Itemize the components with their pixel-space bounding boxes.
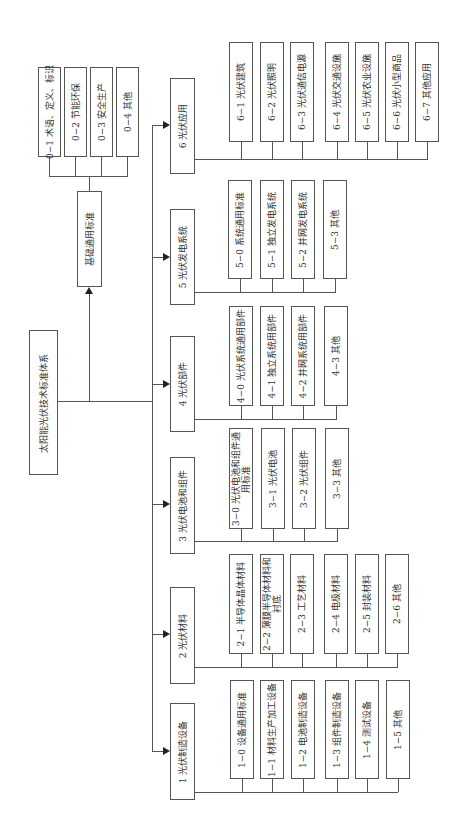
child-label: 6−4 光伏交通设施 xyxy=(332,54,342,130)
category-4-child: 4−0 光伏系统通用部件 xyxy=(229,306,253,406)
category-2-child: 2−2 薄膜半导体材料和衬底 xyxy=(260,554,284,654)
child-stem xyxy=(337,529,338,541)
child-stem xyxy=(427,142,428,159)
general-child-0-1: 0−1 术语、定义、标识 xyxy=(38,67,61,157)
child-label: 3−2 光伏组件 xyxy=(299,450,309,508)
category-1-bus xyxy=(194,792,398,793)
category-3-node: 3 光伏电池和组件 xyxy=(170,457,195,554)
child-label: 1−3 组件制造设备 xyxy=(332,692,342,768)
child-stem xyxy=(367,654,368,667)
child-stem xyxy=(335,279,336,292)
child-label: 1−1 材料生产加工设备 xyxy=(267,683,277,777)
general-standards-label: 基础通用标准 xyxy=(85,212,95,266)
child-stem xyxy=(336,406,337,419)
child-label: 2−4 电极材料 xyxy=(331,575,341,633)
category-2-child: 2−6 其他 xyxy=(385,554,409,654)
child-stem xyxy=(273,529,274,541)
general-standards-node: 基础通用标准 xyxy=(77,191,102,287)
arrow-right-icon xyxy=(163,380,170,388)
child-stem xyxy=(304,529,305,541)
child-stem xyxy=(397,654,398,667)
child-label: 1−2 电池制造设备 xyxy=(298,692,308,768)
category-5-bus xyxy=(194,292,336,293)
category-2-child: 2−5 封装材料 xyxy=(355,554,379,654)
child-label: 3−0 光伏电池和组件通用标准 xyxy=(231,431,251,527)
child-label: 4−1 独立系统用部件 xyxy=(267,314,277,399)
child-label: 2−2 薄膜半导体材料和衬底 xyxy=(262,556,282,652)
category-3-child: 3−1 光伏电池 xyxy=(261,428,285,529)
child-stem xyxy=(397,142,398,159)
category-5-child: 5−1 独立发电系统 xyxy=(260,180,284,279)
category-2-child: 2−3 工艺材料 xyxy=(290,554,314,654)
child-label: 5−2 并网发电系统 xyxy=(298,192,308,268)
child-label: 5−3 其他 xyxy=(330,210,340,250)
general-child-label: 0−2 节能环保 xyxy=(71,83,81,141)
child-label: 1−4 测试设备 xyxy=(362,701,372,759)
child-stem xyxy=(336,654,337,667)
general-child-0-2: 0−2 节能环保 xyxy=(64,67,87,157)
child-label: 2−3 工艺材料 xyxy=(297,575,307,633)
child-stem xyxy=(101,157,102,176)
child-stem xyxy=(272,654,273,667)
child-stem xyxy=(303,279,304,292)
category-2-child: 2−1 半导体晶体材料 xyxy=(229,554,253,654)
category-label: 6 光伏应用 xyxy=(178,104,188,149)
child-stem xyxy=(127,157,128,176)
category-label: 1 光伏制造设备 xyxy=(178,720,188,783)
category-1-node: 1 光伏制造设备 xyxy=(170,703,195,800)
category-4-child: 4−1 独立系统用部件 xyxy=(260,306,284,406)
category-2-child: 2−4 电极材料 xyxy=(324,554,348,654)
root-node: 太阳能光伏技术标准体系 xyxy=(29,330,58,475)
child-label: 6−6 光伏小型商品 xyxy=(392,54,402,130)
child-label: 6−5 光伏农业设施 xyxy=(362,54,372,130)
child-label: 1−0 设备通用标准 xyxy=(237,692,247,768)
standards-hierarchy-diagram: 太阳能光伏技术标准体系 基础通用标准 0−1 术语、定义、标识 0−2 节能环保… xyxy=(0,0,455,832)
child-stem xyxy=(398,779,399,792)
child-stem xyxy=(241,406,242,419)
category-1-child: 1−2 电池制造设备 xyxy=(291,680,315,779)
category-3-bus xyxy=(194,541,338,542)
general-child-0-4: 0−4 其他 xyxy=(116,67,139,157)
child-label: 2−5 封装材料 xyxy=(362,575,372,633)
child-stem xyxy=(240,279,241,292)
arrow-right-icon xyxy=(163,747,170,755)
category-6-child: 6−2 光伏照明 xyxy=(260,42,284,142)
category-5-child: 5−3 其他 xyxy=(323,180,347,279)
child-stem xyxy=(242,779,243,792)
child-stem xyxy=(302,142,303,159)
category-6-child: 6−6 光伏小型商品 xyxy=(385,42,409,142)
category-1-child: 1−4 测试设备 xyxy=(355,680,379,779)
category-label: 4 光伏部件 xyxy=(178,362,188,407)
category-1-child: 1−5 其他 xyxy=(386,680,410,779)
category-5-node: 5 光伏发电系统 xyxy=(170,209,195,305)
child-label: 4−3 其他 xyxy=(331,336,341,376)
category-2-node: 2 光伏材料 xyxy=(170,587,195,684)
child-label: 6−7 其他应用 xyxy=(422,63,432,121)
child-label: 3−1 光伏电池 xyxy=(268,450,278,508)
category-4-bus xyxy=(194,419,337,420)
child-label: 4−2 并网系统用部件 xyxy=(298,314,308,399)
child-label: 6−2 光伏照明 xyxy=(267,63,277,121)
category-6-child: 6−5 光伏农业设施 xyxy=(355,42,379,142)
category-3-child: 3−3 其他 xyxy=(325,428,349,529)
child-label: 3−3 其他 xyxy=(332,459,342,499)
child-label: 6−3 光伏通信电源 xyxy=(297,54,307,130)
child-stem xyxy=(337,142,338,159)
child-label: 1−5 其他 xyxy=(393,710,403,750)
general-child-label: 0−3 安全生产 xyxy=(97,83,107,141)
category-6-child: 6−3 光伏通信电源 xyxy=(290,42,314,142)
general-child-label: 0−4 其他 xyxy=(123,92,133,132)
child-stem xyxy=(367,142,368,159)
category-6-child: 6−4 光伏交通设施 xyxy=(325,42,349,142)
child-label: 5−1 独立发电系统 xyxy=(267,192,277,268)
category-1-child: 1−0 设备通用标准 xyxy=(230,680,254,779)
child-label: 5−0 系统通用标准 xyxy=(235,192,245,268)
category-6-child: 6−7 其他应用 xyxy=(415,42,439,142)
main-spine xyxy=(152,125,153,752)
arrow-right-icon xyxy=(163,121,170,129)
category-4-child: 4−2 并网系统用部件 xyxy=(291,306,315,406)
category-label: 3 光伏电池和组件 xyxy=(178,470,188,542)
category-6-child: 6−1 光伏建筑 xyxy=(229,42,253,142)
child-stem xyxy=(272,406,273,419)
child-stem xyxy=(302,654,303,667)
